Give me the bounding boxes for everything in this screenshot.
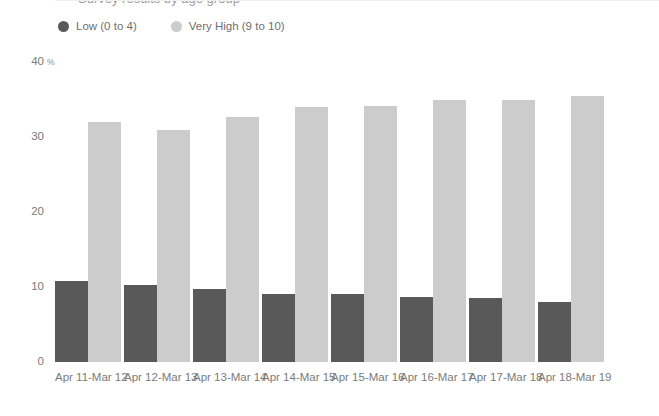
bar[interactable]: [400, 297, 433, 362]
bar[interactable]: [331, 294, 364, 362]
x-axis-category-label: Apr 14-Mar 15: [262, 370, 341, 384]
bar[interactable]: [226, 117, 259, 362]
bar-chart-plot: % 010203040 Apr 11-Mar 12 Apr 12-Mar 13 …: [0, 0, 659, 416]
bar[interactable]: [538, 302, 571, 362]
bar[interactable]: [571, 96, 604, 362]
bar[interactable]: [88, 122, 121, 362]
bar[interactable]: [262, 294, 295, 362]
bar[interactable]: [124, 285, 157, 362]
x-axis-category-label: Apr 16-Mar 17: [400, 370, 479, 384]
bars-layer: Apr 11-Mar 12 Apr 12-Mar 13 Apr 13-Mar 1…: [0, 0, 659, 416]
bar[interactable]: [55, 281, 88, 362]
x-axis-category-label: Apr 18-Mar 19: [538, 370, 617, 384]
bar[interactable]: [193, 289, 226, 362]
x-axis-category-label: Apr 15-Mar 16: [331, 370, 410, 384]
bar[interactable]: [295, 107, 328, 362]
x-axis-category-label: Apr 11-Mar 12: [55, 370, 134, 384]
bar[interactable]: [157, 130, 190, 363]
bar[interactable]: [364, 106, 397, 362]
x-axis-category-label: Apr 17-Mar 18: [469, 370, 548, 384]
x-axis-category-label: Apr 13-Mar 14: [193, 370, 272, 384]
bar[interactable]: [433, 100, 466, 363]
bar[interactable]: [502, 100, 535, 363]
bar[interactable]: [469, 298, 502, 362]
x-axis-category-label: Apr 12-Mar 13: [124, 370, 203, 384]
